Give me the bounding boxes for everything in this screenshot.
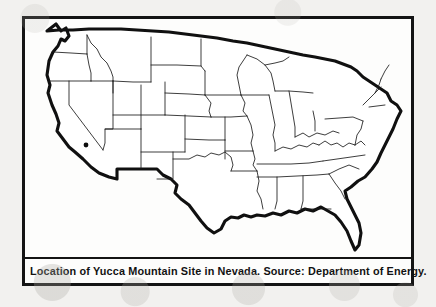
border-newhampshire-maine: [381, 65, 389, 79]
us-map-svg: [25, 19, 411, 259]
national-outline: [47, 24, 401, 250]
yucca-mountain-site-marker: [84, 143, 89, 148]
figure-frame: Location of Yucca Mountain Site in Nevad…: [22, 16, 414, 286]
us-map: [25, 19, 411, 259]
figure-caption-text: Location of Yucca Mountain Site in Nevad…: [30, 265, 427, 277]
figure-caption-bar: Location of Yucca Mountain Site in Nevad…: [25, 257, 411, 283]
